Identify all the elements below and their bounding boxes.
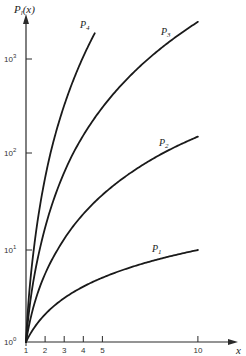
x-tick-label: 5 (100, 346, 105, 355)
x-tick-label: 10 (193, 346, 202, 355)
curve-p2 (26, 137, 198, 342)
curve-p1 (26, 250, 198, 342)
y-tick-label: 102 (4, 147, 17, 158)
legendre-chart: Pl(x) x 100101102103 1234510 P1P2P3P4 (0, 0, 246, 356)
y-tick-label: 101 (4, 244, 17, 255)
y-tick-label: 100 (4, 336, 17, 347)
curve-label-p3: P3 (160, 26, 171, 39)
x-ticks: 1234510 (24, 336, 203, 355)
curve-p3 (26, 22, 198, 342)
x-axis-label: x (235, 344, 241, 356)
curve-label-p1: P1 (151, 243, 162, 256)
curve-labels: P1P2P3P4 (79, 19, 171, 256)
y-axis-arrow (23, 14, 29, 24)
x-tick-label: 4 (81, 346, 86, 355)
curve-label-p2: P2 (158, 137, 169, 150)
curves (26, 22, 198, 342)
y-axis-label: Pl(x) (13, 3, 35, 17)
y-tick-label: 103 (4, 53, 17, 64)
curve-label-p4: P4 (79, 19, 90, 32)
x-tick-label: 3 (62, 346, 67, 355)
x-tick-label: 2 (43, 346, 48, 355)
x-tick-label: 1 (24, 346, 29, 355)
